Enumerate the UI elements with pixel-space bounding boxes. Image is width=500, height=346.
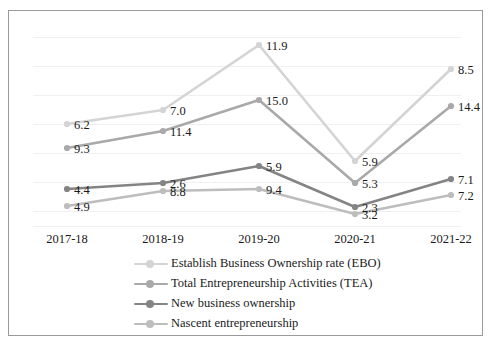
legend-item[interactable]: Establish Business Ownership rate (EBO): [134, 254, 464, 273]
data-label: 4.4: [74, 184, 90, 197]
data-point: [64, 145, 70, 151]
data-label: 9.3: [74, 143, 90, 156]
data-label: 8.5: [458, 64, 474, 77]
data-label: 6.2: [74, 119, 90, 132]
data-point: [64, 121, 70, 127]
data-point: [64, 186, 70, 192]
data-label: 5.9: [362, 156, 378, 169]
data-point: [352, 180, 358, 186]
data-label: 9.4: [266, 184, 282, 197]
legend-item[interactable]: Total Entrepreneurship Activities (TEA): [134, 274, 464, 293]
data-point: [448, 103, 454, 109]
data-point: [160, 180, 166, 186]
series-3: [64, 186, 454, 217]
chart-legend: Establish Business Ownership rate (EBO)T…: [134, 254, 464, 334]
legend-item[interactable]: Nascent entrepreneurship: [134, 314, 464, 333]
legend-marker-icon: [134, 258, 168, 270]
data-label: 8.8: [170, 186, 186, 199]
series-line: [67, 100, 451, 183]
data-point: [448, 176, 454, 182]
series-1: [64, 97, 454, 186]
data-label: 3.2: [362, 209, 378, 222]
data-point: [448, 192, 454, 198]
legend-marker-icon: [134, 318, 168, 330]
legend-item[interactable]: New business ownership: [134, 294, 464, 313]
data-point: [160, 128, 166, 134]
data-point: [256, 163, 262, 169]
legend-label: Nascent entrepreneurship: [171, 317, 298, 330]
data-point: [352, 211, 358, 217]
data-label: 11.4: [170, 126, 191, 139]
legend-label: Total Entrepreneurship Activities (TEA): [171, 277, 373, 290]
data-point: [160, 107, 166, 113]
x-tick-2019-20: 2019-20: [214, 233, 304, 246]
x-tick-2021-22: 2021-22: [406, 233, 496, 246]
data-label: 7.0: [170, 105, 186, 118]
data-label: 11.9: [266, 40, 287, 53]
legend-label: Establish Business Ownership rate (EBO): [171, 257, 381, 270]
data-point: [352, 204, 358, 210]
series-line: [67, 189, 451, 214]
data-label: 7.1: [458, 174, 474, 187]
data-label: 7.2: [458, 190, 474, 203]
legend-label: New business ownership: [171, 297, 295, 310]
data-label: 4.9: [74, 201, 90, 214]
x-tick-2020-21: 2020-21: [310, 233, 400, 246]
legend-marker-icon: [134, 278, 168, 290]
data-point: [352, 158, 358, 164]
data-point: [160, 188, 166, 194]
x-tick-2017-18: 2017-18: [22, 233, 112, 246]
data-point: [448, 66, 454, 72]
data-point: [256, 97, 262, 103]
data-label: 5.9: [266, 161, 282, 174]
legend-marker-icon: [134, 298, 168, 310]
data-point: [256, 42, 262, 48]
data-label: 14.4: [458, 101, 480, 114]
data-point: [64, 203, 70, 209]
chart-figure: 6.27.011.95.98.59.311.415.05.314.44.42.6…: [8, 10, 483, 336]
data-label: 15.0: [266, 95, 288, 108]
data-point: [256, 186, 262, 192]
x-tick-2018-19: 2018-19: [118, 233, 208, 246]
data-label: 5.3: [362, 178, 378, 191]
